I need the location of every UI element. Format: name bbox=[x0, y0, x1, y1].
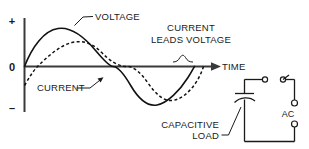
current-label: CURRENT bbox=[37, 82, 85, 93]
ac-terminal-lower[interactable] bbox=[292, 121, 298, 127]
capacitive-load-label-line1: CAPACITIVE bbox=[161, 119, 219, 130]
ac-source-label: AC bbox=[282, 109, 295, 119]
y-axis-zero-label: 0 bbox=[9, 61, 15, 73]
x-axis-time-label: TIME bbox=[222, 61, 246, 72]
switch-terminal-left[interactable] bbox=[262, 77, 267, 82]
figure-root: + 0 – TIME VOLTAGE CURRENT CURRENT LEADS… bbox=[0, 0, 309, 149]
y-axis-positive-label: + bbox=[9, 15, 15, 27]
waveform-circuit-diagram: + 0 – TIME VOLTAGE CURRENT CURRENT LEADS… bbox=[0, 0, 309, 149]
ac-terminal-upper[interactable] bbox=[292, 100, 298, 106]
voltage-label: VOLTAGE bbox=[95, 11, 140, 22]
y-axis-negative-label: – bbox=[9, 102, 15, 114]
canvas-background bbox=[0, 0, 309, 149]
phase-note-line2: LEADS VOLTAGE bbox=[151, 34, 231, 45]
phase-note-line1: CURRENT bbox=[167, 22, 215, 33]
capacitive-load-label-line2: LOAD bbox=[192, 130, 219, 141]
